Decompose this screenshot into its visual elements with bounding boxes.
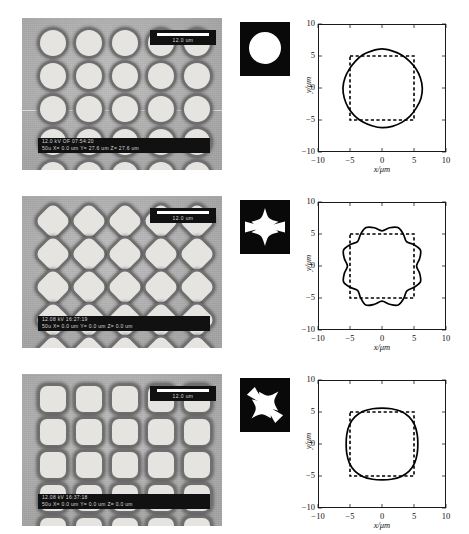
x-tick-label: 5 xyxy=(403,155,425,165)
plot-octagon-canvas xyxy=(300,184,465,350)
sem-feature xyxy=(40,518,66,526)
sem-feature xyxy=(184,96,210,122)
mask-cross-star-icon xyxy=(240,200,290,254)
sem-feature-shape xyxy=(148,162,174,170)
sem-feature-shape xyxy=(40,63,66,89)
sem-feature-shape xyxy=(71,236,108,273)
sem-feature xyxy=(40,340,66,348)
sem-feature xyxy=(148,241,174,267)
y-tick-label: 10 xyxy=(298,18,315,28)
sem-info-bar: 12.08 kV 16:37:18 50u X= 0.0 um Y= 0.0 u… xyxy=(38,494,210,509)
sem-micrograph-diamond: 12.0 um 12.08 kV 16:27:19 50u X= 0.0 um … xyxy=(22,196,222,348)
x-tick-label: −5 xyxy=(339,333,361,343)
plot-squircle-canvas xyxy=(300,362,465,528)
sem-info-line-2: 50u X= 0.0 um Y= 27.6 um Z= 27.6 um xyxy=(42,145,139,152)
sem-feature xyxy=(40,274,66,300)
sem-feature xyxy=(112,419,138,445)
sem-feature-shape xyxy=(76,518,102,526)
panel-row-diamond: 12.0 um 12.08 kV 16:27:19 50u X= 0.0 um … xyxy=(0,178,469,356)
y-tick-label: 10 xyxy=(298,196,315,206)
sem-feature-shape xyxy=(76,419,102,445)
scale-bar-label: 12.0 um xyxy=(150,392,216,400)
sem-feature-shape xyxy=(112,162,138,170)
sem-feature-shape xyxy=(148,96,174,122)
y-tick-label: 5 xyxy=(298,228,315,238)
sem-feature xyxy=(112,208,138,234)
plot-octagon-wavy: x/μm y/μm −10−50510−10−50510 xyxy=(300,184,465,350)
sem-feature-shape xyxy=(184,452,210,478)
sem-feature xyxy=(112,63,138,89)
sem-feature-shape xyxy=(107,203,144,240)
sem-feature xyxy=(76,274,102,300)
x-tick-label: 0 xyxy=(371,155,393,165)
sem-feature-shape xyxy=(184,419,210,445)
y-tick-label: 10 xyxy=(298,374,315,384)
sem-feature xyxy=(76,96,102,122)
sem-feature xyxy=(184,518,210,526)
sem-feature-shape xyxy=(112,30,138,56)
sem-info-line-1: 12.08 kV 16:37:18 xyxy=(42,494,88,501)
x-tick-label: −5 xyxy=(339,155,361,165)
scale-bar-label: 12.0 um xyxy=(150,214,216,222)
sem-feature xyxy=(184,63,210,89)
sem-feature xyxy=(112,96,138,122)
sem-feature xyxy=(148,96,174,122)
sem-feature xyxy=(76,419,102,445)
sem-feature xyxy=(148,162,174,170)
sem-feature xyxy=(148,340,174,348)
sem-feature-shape xyxy=(76,63,102,89)
panel-row-rounded-square: 12.0 um 12.08 kV 16:37:18 50u X= 0.0 um … xyxy=(0,356,469,534)
x-tick-label: 0 xyxy=(371,333,393,343)
sem-micrograph-circle: 12.0 um 12.0 kV OF 07:54:20 50u X= 0.0 u… xyxy=(22,18,222,170)
sem-feature-shape xyxy=(184,96,210,122)
sem-feature-shape xyxy=(76,386,102,412)
y-tick-label: −10 xyxy=(298,146,315,156)
sem-feature xyxy=(112,340,138,348)
sem-feature xyxy=(76,340,102,348)
sem-feature-shape xyxy=(76,30,102,56)
x-tick-label: 5 xyxy=(403,511,425,521)
plot-circle: x/μm y/μm −10−50510−10−50510 xyxy=(300,6,465,172)
sem-feature-shape xyxy=(112,452,138,478)
plot-circle-canvas xyxy=(300,6,465,172)
y-tick-label: 0 xyxy=(298,82,315,92)
sem-feature-shape xyxy=(71,335,108,348)
sem-scale-bar: 12.0 um xyxy=(150,386,216,401)
x-tick-label: −5 xyxy=(339,511,361,521)
sem-feature xyxy=(112,162,138,170)
x-tick-label: 10 xyxy=(435,333,457,343)
sem-feature xyxy=(40,452,66,478)
y-tick-label: 0 xyxy=(298,260,315,270)
sem-feature-shape xyxy=(179,269,216,306)
sem-micrograph-rounded-square: 12.0 um 12.08 kV 16:37:18 50u X= 0.0 um … xyxy=(22,374,222,526)
sem-feature-shape xyxy=(148,63,174,89)
sem-feature xyxy=(76,386,102,412)
sem-feature xyxy=(148,419,174,445)
sem-feature xyxy=(40,386,66,412)
x-tick-label: −10 xyxy=(307,511,329,521)
sem-feature-shape xyxy=(179,236,216,273)
sem-feature xyxy=(112,241,138,267)
sem-feature-shape xyxy=(107,236,144,273)
sem-feature-shape xyxy=(148,419,174,445)
sem-feature xyxy=(184,162,210,170)
mask-diagonal-star-icon xyxy=(240,378,290,432)
sem-feature xyxy=(148,452,174,478)
mask-inset-cross-star xyxy=(240,200,290,254)
sem-feature-shape xyxy=(40,96,66,122)
sem-feature xyxy=(76,63,102,89)
sem-feature-shape xyxy=(143,269,180,306)
sem-feature xyxy=(76,518,102,526)
panel-row-circle: 12.0 um 12.0 kV OF 07:54:20 50u X= 0.0 u… xyxy=(0,0,469,178)
sem-feature-shape xyxy=(112,63,138,89)
plot-squircle: x/μm y/μm −10−50510−10−50510 xyxy=(300,362,465,528)
sem-feature-shape xyxy=(112,518,138,526)
sem-feature xyxy=(76,30,102,56)
sem-feature xyxy=(40,241,66,267)
sem-feature-shape xyxy=(76,162,102,170)
sem-feature-shape xyxy=(148,452,174,478)
mask-inset-circle xyxy=(240,22,290,76)
mask-inset-diagonal-star xyxy=(240,378,290,432)
sem-feature xyxy=(184,419,210,445)
sem-feature-shape xyxy=(40,518,66,526)
